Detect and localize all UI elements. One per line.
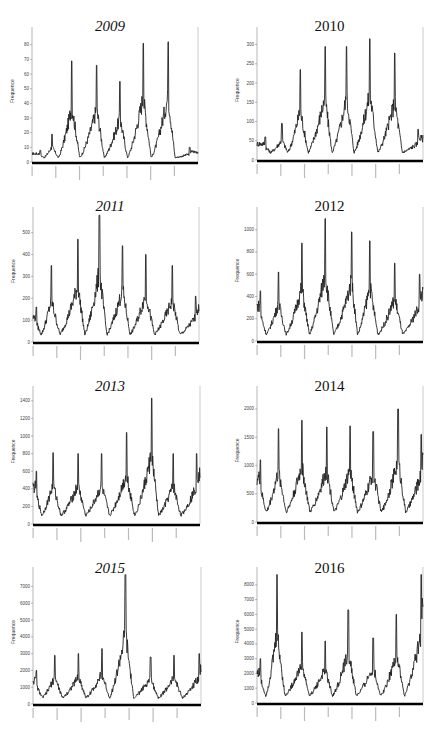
data-series-line [257, 575, 423, 697]
y-tick-label: 1000 [244, 227, 255, 232]
chart-panel-2012: 201202004006008001000Frequence [220, 185, 439, 365]
chart-panel-2009: 200901020304050607080Frequence [0, 0, 220, 185]
y-tick-label: 10 [24, 145, 30, 150]
x-tick-label [280, 707, 281, 719]
x-tick-label [304, 707, 305, 721]
x-tick-label [128, 528, 129, 540]
x-tick-label [126, 166, 127, 178]
data-series-line [257, 409, 423, 513]
x-tick-label [103, 166, 104, 176]
x-tick-label [399, 526, 400, 536]
data-series-line [33, 575, 201, 699]
y-tick-label: 30 [24, 116, 30, 121]
x-tick-label [174, 166, 175, 176]
x-tick-label [151, 346, 152, 360]
y-tick-label: 500 [22, 230, 30, 235]
plot-area: 050100150200250300Frequence [220, 0, 439, 185]
plot-area: 0500100015002000Frequence [220, 365, 439, 545]
y-tick-label: 0 [251, 339, 254, 344]
x-tick-label [399, 345, 400, 355]
y-tick-label: 3000 [244, 656, 255, 661]
y-tick-label: 1000 [20, 434, 31, 439]
x-tick-label [328, 707, 329, 717]
data-series-line [257, 219, 423, 336]
y-tick-label: 20 [24, 130, 30, 135]
x-tick-label [55, 166, 56, 178]
y-tick-label: 6000 [244, 612, 255, 617]
y-axis-label: Frequence [10, 439, 16, 463]
x-tick-label [399, 707, 400, 717]
y-tick-label: 3000 [20, 651, 31, 656]
y-tick-label: 0 [251, 701, 254, 706]
x-tick-label [375, 526, 376, 540]
x-tick-label [57, 708, 58, 720]
y-tick-label: 6000 [20, 601, 31, 606]
y-tick-label: 1000 [244, 463, 255, 468]
chart-panel-2015: 201501000200030004000500060007000Frequen… [0, 545, 220, 737]
x-tick-label [257, 707, 258, 717]
x-tick-label [375, 164, 376, 178]
x-tick-label [129, 708, 130, 720]
x-tick-label [80, 346, 81, 360]
plot-area: 01000200030004000500060007000Frequence [0, 545, 220, 737]
data-series-line [33, 398, 200, 516]
x-tick-label [79, 166, 80, 180]
y-tick-label: 5000 [244, 627, 255, 632]
y-tick-label: 80 [24, 42, 30, 47]
x-tick-label [257, 345, 258, 355]
y-tick-label: 40 [24, 101, 30, 106]
y-tick-label: 0 [27, 702, 30, 707]
y-tick-label: 60 [24, 72, 30, 77]
x-tick-label [351, 164, 352, 176]
y-tick-label: 200 [22, 504, 30, 509]
x-tick-label [280, 526, 281, 538]
chart-panel-2013: 20130200400600800100012001400Frequence [0, 365, 220, 545]
y-tick-label: 100 [246, 119, 254, 124]
y-tick-label: 0 [251, 158, 254, 163]
x-tick-label [399, 164, 400, 174]
x-tick-label [351, 707, 352, 719]
x-tick-label [127, 346, 128, 358]
y-tick-label: 800 [22, 451, 30, 456]
x-tick-label [328, 164, 329, 174]
chart-grid: 200901020304050607080Frequence2010050100… [0, 0, 439, 737]
chart-panel-2011: 20110100200300400500Frequence [0, 185, 220, 365]
y-tick-label: 7000 [244, 597, 255, 602]
y-tick-label: 800 [246, 249, 254, 254]
y-tick-label: 8000 [244, 582, 255, 587]
y-tick-label: 600 [246, 272, 254, 277]
plot-area: 01020304050607080Frequence [0, 0, 220, 185]
plot-area: 010002000300040005000600070008000Frequen… [220, 545, 439, 737]
x-tick-label [375, 707, 376, 721]
x-tick-label [56, 528, 57, 540]
y-tick-label: 600 [22, 469, 30, 474]
chart-panel-2016: 2016010002000300040005000600070008000Fre… [220, 545, 439, 737]
x-tick-label [152, 528, 153, 542]
y-tick-label: 5000 [20, 618, 31, 623]
y-tick-label: 100 [22, 318, 30, 323]
x-tick-label [280, 345, 281, 357]
y-tick-label: 300 [22, 274, 30, 279]
y-axis-label: Frequence [9, 79, 15, 103]
y-tick-label: 0 [26, 160, 29, 165]
x-tick-label [33, 346, 34, 356]
x-tick-label [351, 526, 352, 538]
x-tick-label [56, 346, 57, 358]
x-tick-label [104, 346, 105, 356]
y-tick-label: 400 [22, 252, 30, 257]
x-tick-label [304, 526, 305, 540]
x-tick-label [280, 164, 281, 176]
y-tick-label: 2000 [244, 406, 255, 411]
y-tick-label: 200 [246, 81, 254, 86]
y-tick-label: 4000 [20, 634, 31, 639]
y-tick-label: 4000 [244, 641, 255, 646]
x-tick-label [81, 708, 82, 722]
x-tick-label [176, 528, 177, 538]
x-tick-label [328, 526, 329, 536]
y-tick-label: 1400 [20, 398, 31, 403]
x-tick-label [351, 345, 352, 357]
plot-area: 0200400600800100012001400Frequence [0, 365, 220, 545]
x-tick-label [177, 708, 178, 718]
y-tick-label: 1000 [244, 686, 255, 691]
y-tick-label: 250 [246, 61, 254, 66]
